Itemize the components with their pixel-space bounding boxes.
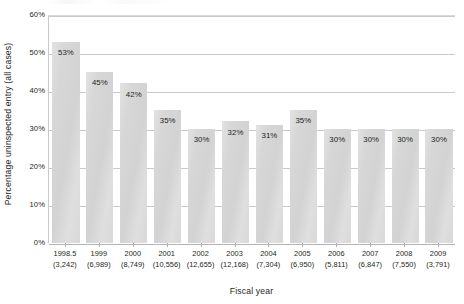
x-axis-tick-mark bbox=[65, 243, 66, 247]
x-axis-tick-label: 2002(12,655) bbox=[184, 249, 218, 270]
x-axis-tick-count: (5,811) bbox=[319, 260, 353, 271]
x-axis-tick-year: 1999 bbox=[91, 249, 108, 258]
x-axis-tick-mark bbox=[268, 243, 269, 247]
cropped-edge-artifact bbox=[44, 0, 174, 4]
bar-value-label: 30% bbox=[324, 136, 351, 144]
x-axis-tick-label: 2005(6,950) bbox=[285, 249, 319, 270]
bar-slot: 30% bbox=[392, 16, 419, 243]
bar-value-label: 30% bbox=[358, 136, 385, 144]
y-axis-tick-label: 0% bbox=[1, 239, 45, 247]
x-axis-tick-label: 2007(6,847) bbox=[353, 249, 387, 270]
bar-value-label: 53% bbox=[52, 49, 79, 57]
x-axis-tick-count: (12,655) bbox=[184, 260, 218, 271]
bar-value-label: 30% bbox=[392, 136, 419, 144]
x-axis-tick-mark bbox=[201, 243, 202, 247]
y-axis-tick-label: 30% bbox=[1, 125, 45, 133]
x-axis-tick-label: 2006(5,811) bbox=[319, 249, 353, 270]
x-axis-tick-label: 2000(8,749) bbox=[116, 249, 150, 270]
x-axis-tick-mark bbox=[302, 243, 303, 247]
x-axis-tick-year: 2009 bbox=[430, 249, 447, 258]
x-axis-tick-year: 2006 bbox=[328, 249, 345, 258]
bar-slot: 30% bbox=[358, 16, 385, 243]
x-axis-tick-year: 2007 bbox=[362, 249, 379, 258]
bar[interactable] bbox=[154, 110, 181, 243]
x-axis-tick-year: 2008 bbox=[396, 249, 413, 258]
bar[interactable] bbox=[120, 83, 147, 243]
x-axis-tick-mark bbox=[438, 243, 439, 247]
x-axis-tick-count: (6,847) bbox=[353, 260, 387, 271]
x-axis-tick-count: (3,242) bbox=[48, 260, 82, 271]
x-axis-tick-mark bbox=[133, 243, 134, 247]
bar-slot: 53% bbox=[52, 16, 79, 243]
x-axis-tick-count: (3,791) bbox=[421, 260, 455, 271]
x-axis-title: Fiscal year bbox=[48, 286, 455, 296]
x-axis-tick-year: 2002 bbox=[192, 249, 209, 258]
bar-slot: 30% bbox=[324, 16, 351, 243]
x-axis-tick-count: (10,556) bbox=[150, 260, 184, 271]
bar[interactable] bbox=[392, 129, 419, 243]
x-axis-tick-mark bbox=[336, 243, 337, 247]
bar[interactable] bbox=[256, 125, 283, 243]
y-axis-tick-label: 40% bbox=[1, 87, 45, 95]
x-axis-tick-count: (12,168) bbox=[218, 260, 252, 271]
y-axis-ticks: 0%10%20%30%40%50%60% bbox=[0, 0, 45, 304]
x-axis-tick-year: 1998.5 bbox=[54, 249, 77, 258]
y-axis-tick-label: 10% bbox=[1, 201, 45, 209]
bar-slot: 45% bbox=[86, 16, 113, 243]
x-axis-tick-year: 2003 bbox=[226, 249, 243, 258]
x-axis-tick-label: 1999(6,989) bbox=[82, 249, 116, 270]
bar-slot: 35% bbox=[154, 16, 181, 243]
bar[interactable] bbox=[188, 129, 215, 243]
x-axis-tick-count: (7,304) bbox=[252, 260, 286, 271]
bar[interactable] bbox=[86, 72, 113, 243]
bar-value-label: 35% bbox=[154, 117, 181, 125]
bar-slot: 42% bbox=[120, 16, 147, 243]
x-axis-tick-mark bbox=[370, 243, 371, 247]
x-axis-tick-count: (7,550) bbox=[387, 260, 421, 271]
y-axis-tick-label: 60% bbox=[1, 11, 45, 19]
x-axis-tick-label: 2004(7,304) bbox=[252, 249, 286, 270]
x-axis-tick-label: 2003(12,168) bbox=[218, 249, 252, 270]
bar-series: 53%45%42%35%30%32%31%35%30%30%30%30% bbox=[49, 16, 455, 243]
y-axis-tick-label: 20% bbox=[1, 163, 45, 171]
x-axis-tick-label: 1998.5(3,242) bbox=[48, 249, 82, 270]
bar[interactable] bbox=[358, 129, 385, 243]
bar-slot: 35% bbox=[290, 16, 317, 243]
bar[interactable] bbox=[290, 110, 317, 243]
x-axis-tick-count: (6,950) bbox=[285, 260, 319, 271]
bar[interactable] bbox=[52, 42, 79, 243]
bar-value-label: 42% bbox=[120, 91, 147, 99]
x-axis-tick-count: (8,749) bbox=[116, 260, 150, 271]
y-axis-tick-label: 50% bbox=[1, 49, 45, 57]
bar[interactable] bbox=[324, 129, 351, 243]
x-axis-tick-label: 2008(7,550) bbox=[387, 249, 421, 270]
x-axis-tick-mark bbox=[235, 243, 236, 247]
x-axis-tick-label: 2001(10,556) bbox=[150, 249, 184, 270]
x-axis-tick-year: 2001 bbox=[158, 249, 175, 258]
plot-area: 53%45%42%35%30%32%31%35%30%30%30%30% bbox=[48, 15, 455, 243]
bar-value-label: 30% bbox=[425, 136, 452, 144]
bar-chart-figure: Percentage uninspected entry (all cases)… bbox=[0, 0, 464, 304]
x-axis-tick-mark bbox=[99, 243, 100, 247]
bar-slot: 32% bbox=[222, 16, 249, 243]
x-axis-tick-count: (6,989) bbox=[82, 260, 116, 271]
bar[interactable] bbox=[222, 121, 249, 243]
bar-value-label: 35% bbox=[290, 117, 317, 125]
x-axis-title-label: Fiscal year bbox=[230, 286, 273, 296]
x-axis-tick-year: 2004 bbox=[260, 249, 277, 258]
bar-value-label: 32% bbox=[222, 129, 249, 137]
x-axis-ticks: 1998.5(3,242)1999(6,989)2000(8,749)2001(… bbox=[48, 243, 455, 283]
bar-value-label: 45% bbox=[86, 79, 113, 87]
x-axis-tick-mark bbox=[404, 243, 405, 247]
bar-slot: 30% bbox=[425, 16, 452, 243]
bar-value-label: 30% bbox=[188, 136, 215, 144]
bar-slot: 30% bbox=[188, 16, 215, 243]
x-axis-tick-year: 2005 bbox=[294, 249, 311, 258]
x-axis-tick-label: 2009(3,791) bbox=[421, 249, 455, 270]
bar[interactable] bbox=[425, 129, 452, 243]
x-axis-tick-mark bbox=[167, 243, 168, 247]
x-axis-tick-year: 2000 bbox=[124, 249, 141, 258]
bar-slot: 31% bbox=[256, 16, 283, 243]
bar-value-label: 31% bbox=[256, 132, 283, 140]
